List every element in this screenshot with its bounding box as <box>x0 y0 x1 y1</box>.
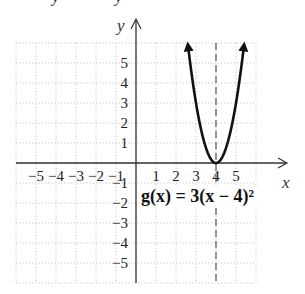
y-tick-label: −1 <box>112 175 128 191</box>
y-tick-label: 1 <box>121 135 129 151</box>
y-tick-label: −5 <box>112 255 128 271</box>
y-tick-label: −2 <box>112 195 128 211</box>
x-tick-label: −2 <box>88 168 104 184</box>
y-tick-label: 5 <box>121 55 129 71</box>
x-tick-label: −5 <box>28 168 44 184</box>
x-tick-label: 2 <box>172 168 180 184</box>
x-tick-label: 5 <box>232 168 240 184</box>
y-tick-label: −3 <box>112 215 128 231</box>
x-tick-label: 1 <box>152 168 160 184</box>
x-axis-label: x <box>281 173 290 192</box>
parabola-graph: xy −5−4−3−2−11234554321−1−2−3−4−5 g(x) =… <box>0 0 305 294</box>
axes: xy <box>16 16 290 283</box>
x-tick-label: −4 <box>48 168 64 184</box>
x-tick-label: 4 <box>212 168 220 184</box>
y-tick-label: −4 <box>112 235 128 251</box>
y-axis-label: y <box>115 16 125 35</box>
x-tick-label: −3 <box>68 168 84 184</box>
function-label-text: g(x) = 3(x − 4)² <box>141 186 254 207</box>
y-tick-label: 3 <box>121 95 129 111</box>
x-tick-label: 3 <box>192 168 200 184</box>
y-tick-label: 2 <box>121 115 129 131</box>
y-tick-label: 4 <box>121 75 129 91</box>
function-label: g(x) = 3(x − 4)² <box>140 185 280 207</box>
